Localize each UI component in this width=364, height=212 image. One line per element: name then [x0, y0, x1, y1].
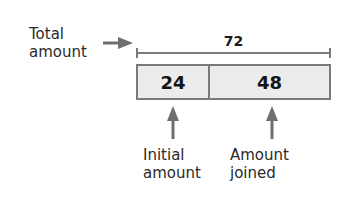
initial-label-line-2: amount	[143, 164, 201, 182]
total-bracket	[137, 48, 330, 58]
segment-joined: 48	[210, 66, 329, 98]
initial-label-line-1: Initial	[143, 146, 201, 164]
joined-label-line-2: joined	[230, 164, 289, 182]
total-label-line-1: Total	[29, 25, 87, 43]
bar-model: 24 48	[136, 64, 331, 100]
initial-amount-arrow-icon	[167, 106, 179, 139]
amount-joined-label: Amount joined	[230, 146, 289, 182]
joined-label-line-1: Amount	[230, 146, 289, 164]
initial-amount-label: Initial amount	[143, 146, 201, 182]
total-arrow-icon	[103, 37, 133, 49]
amount-joined-arrow-icon	[266, 106, 278, 139]
segment-initial: 24	[138, 66, 210, 98]
total-label-line-2: amount	[29, 43, 87, 61]
total-amount-label: Total amount	[29, 25, 87, 61]
total-value: 72	[136, 33, 331, 49]
